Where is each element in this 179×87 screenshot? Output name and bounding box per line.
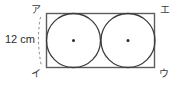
dimension-label: 12 cm (5, 34, 35, 45)
dimension-arc (38, 17, 41, 66)
left-circle-center-dot (72, 39, 75, 42)
vertex-label-bottom-right: ウ (159, 69, 169, 79)
right-circle-center-dot (127, 39, 130, 42)
vertex-label-top-left: ア (31, 5, 41, 15)
geometry-figure: 12 cm ア エ ウ イ (0, 0, 179, 87)
vertex-label-top-right: エ (160, 5, 170, 15)
vertex-label-bottom-left: イ (31, 69, 41, 79)
